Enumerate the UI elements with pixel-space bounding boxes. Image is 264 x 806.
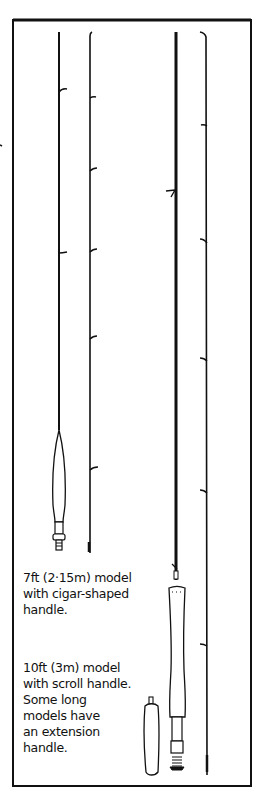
rod-10ft-tip-section — [200, 32, 207, 775]
rod-7ft-tip-section — [89, 32, 98, 553]
rod-7ft-butt-section — [53, 32, 67, 550]
caption-7ft-model: 7ft (2·15m) model with cigar-shaped hand… — [23, 570, 153, 618]
rod-10ft-butt-section — [166, 32, 185, 770]
caption-10ft-model: 10ft (3m) model with scroll handle. Some… — [23, 660, 153, 756]
